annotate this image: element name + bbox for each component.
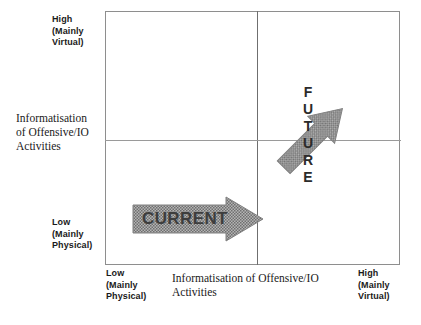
future-letter: U: [303, 135, 313, 152]
y-axis-low-label: Low (Mainly Physical): [52, 217, 92, 252]
y-axis-high-label: High (Mainly Virtual): [52, 14, 84, 49]
x-axis-title: Informatisation of Offensive/IO Activiti…: [172, 271, 319, 299]
y-axis-title: Informatisation of Offensive/IO Activiti…: [16, 111, 89, 153]
future-letter: E: [303, 169, 312, 186]
future-letter: U: [303, 101, 313, 118]
quadrant-divider-horizontal: [105, 140, 401, 141]
future-letter: F: [304, 84, 313, 101]
current-arrow-label: CURRENT: [142, 209, 228, 229]
future-letter: R: [303, 152, 313, 169]
quadrant-divider-vertical: [257, 11, 258, 265]
diagram-canvas: High (Mainly Virtual) Low (Mainly Physic…: [0, 0, 421, 325]
x-axis-high-label: High (Mainly Virtual): [358, 268, 390, 303]
x-axis-low-label: Low (Mainly Physical): [106, 268, 146, 303]
future-arrow-label: F U T U R E: [298, 84, 318, 186]
future-letter: T: [304, 118, 313, 135]
